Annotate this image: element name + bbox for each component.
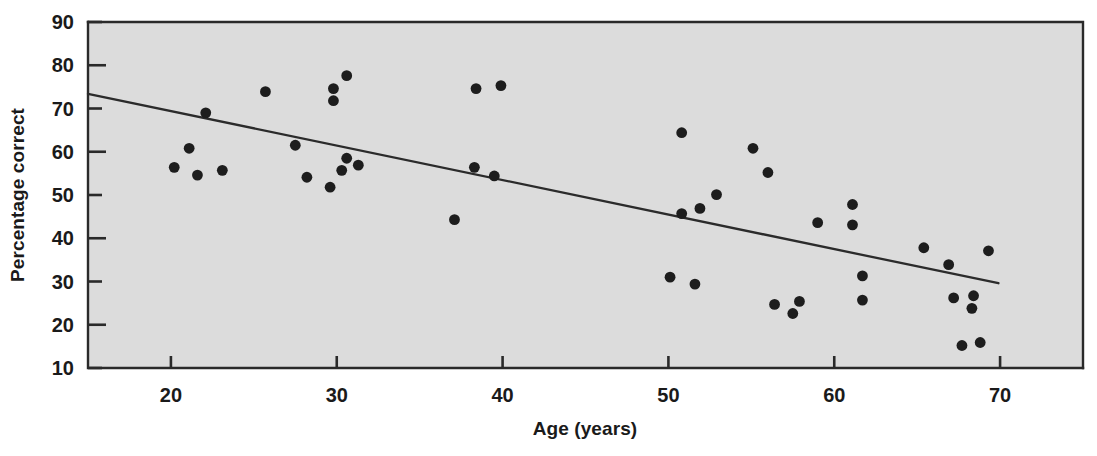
y-tick-label-10: 10: [52, 357, 74, 379]
data-point: [983, 245, 994, 256]
data-point: [769, 299, 780, 310]
data-point: [260, 86, 271, 97]
data-point: [665, 272, 676, 283]
x-axis-label: Age (years): [533, 418, 638, 439]
data-point: [763, 167, 774, 178]
y-tick-label-40: 40: [52, 227, 74, 249]
data-point: [328, 83, 339, 94]
data-point: [966, 303, 977, 314]
data-point: [957, 340, 968, 351]
y-tick-label-60: 60: [52, 141, 74, 163]
data-point: [794, 296, 805, 307]
data-point: [449, 214, 460, 225]
data-point: [200, 107, 211, 118]
data-point: [748, 143, 759, 154]
data-point: [471, 83, 482, 94]
y-axis-tick-labels: 102030405060708090: [52, 11, 74, 379]
plot-canvas: 102030405060708090 203040506070 Age (yea…: [0, 0, 1097, 456]
y-tick-label-90: 90: [52, 11, 74, 33]
data-point: [690, 279, 701, 290]
data-point: [469, 162, 480, 173]
x-tick-label-20: 20: [160, 384, 182, 406]
data-point: [341, 70, 352, 81]
plot-area-background: [88, 22, 1083, 368]
y-tick-label-80: 80: [52, 54, 74, 76]
scatter-plot-figure: 102030405060708090 203040506070 Age (yea…: [0, 0, 1097, 456]
data-point: [847, 219, 858, 230]
data-point: [676, 127, 687, 138]
y-tick-label-30: 30: [52, 271, 74, 293]
x-tick-label-70: 70: [989, 384, 1011, 406]
data-point: [290, 140, 301, 151]
data-point: [948, 293, 959, 304]
data-point: [341, 153, 352, 164]
y-axis-label: Percentage correct: [7, 107, 28, 282]
data-point: [943, 259, 954, 270]
data-point: [302, 172, 313, 183]
y-tick-label-20: 20: [52, 314, 74, 336]
data-point: [695, 203, 706, 214]
data-point: [192, 170, 203, 181]
data-point: [184, 143, 195, 154]
data-point: [496, 80, 507, 91]
data-point: [975, 337, 986, 348]
x-axis-tick-labels: 203040506070: [160, 384, 1011, 406]
data-point: [711, 189, 722, 200]
x-tick-label-60: 60: [823, 384, 845, 406]
x-tick-label-40: 40: [491, 384, 513, 406]
data-point: [336, 165, 347, 176]
data-point: [857, 295, 868, 306]
data-point: [968, 290, 979, 301]
x-tick-label-30: 30: [326, 384, 348, 406]
data-point: [353, 160, 364, 171]
data-point: [325, 182, 336, 193]
x-tick-label-50: 50: [657, 384, 679, 406]
data-point: [169, 162, 180, 173]
data-point: [217, 165, 228, 176]
y-tick-label-70: 70: [52, 98, 74, 120]
data-point: [812, 217, 823, 228]
data-point: [857, 270, 868, 281]
data-point: [489, 171, 500, 182]
data-point: [676, 208, 687, 219]
data-point: [847, 199, 858, 210]
y-tick-label-50: 50: [52, 184, 74, 206]
data-point: [918, 242, 929, 253]
data-point: [787, 308, 798, 319]
data-point: [328, 95, 339, 106]
